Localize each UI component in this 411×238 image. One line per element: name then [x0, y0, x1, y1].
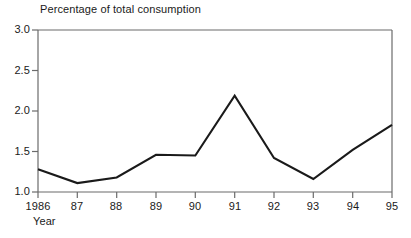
- x-tick-label-92: 92: [259, 200, 289, 212]
- data-series-line: [38, 96, 392, 183]
- x-tick-label-95: 95: [377, 200, 407, 212]
- x-tick-label-91: 91: [220, 200, 250, 212]
- x-axis-title: Year: [33, 215, 56, 227]
- line-chart: Percentage of total consumption: [0, 0, 411, 238]
- x-tick-label-89: 89: [141, 200, 171, 212]
- y-tick-label-3-0: 3.0: [0, 23, 30, 35]
- x-tick-label-88: 88: [101, 200, 131, 212]
- y-tick-marks: [32, 30, 38, 192]
- x-tick-label-94: 94: [338, 200, 368, 212]
- y-tick-label-1-5: 1.5: [0, 145, 30, 157]
- x-tick-label-1986: 1986: [18, 200, 58, 212]
- x-tick-label-90: 90: [180, 200, 210, 212]
- x-tick-label-93: 93: [298, 200, 328, 212]
- y-tick-label-2-0: 2.0: [0, 104, 30, 116]
- y-tick-label-1-0: 1.0: [0, 185, 30, 197]
- x-tick-marks: [38, 192, 392, 198]
- x-tick-label-87: 87: [62, 200, 92, 212]
- y-tick-label-2-5: 2.5: [0, 64, 30, 76]
